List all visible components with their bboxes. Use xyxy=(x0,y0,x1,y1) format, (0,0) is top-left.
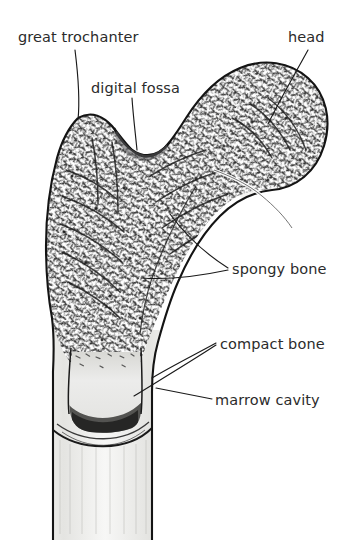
marrow-cavity-region xyxy=(68,352,142,436)
label-digital-fossa: digital fossa xyxy=(91,81,180,96)
figure-canvas: great trochanter head digital fossa spon… xyxy=(0,0,349,540)
leader-compact-bone-outer xyxy=(152,343,216,378)
label-great-trochanter: great trochanter xyxy=(18,30,139,45)
spongy-bone-texture xyxy=(20,50,349,380)
leader-marrow-cavity xyxy=(156,388,212,399)
label-spongy-bone: spongy bone xyxy=(232,262,327,277)
label-marrow-cavity: marrow cavity xyxy=(215,393,320,408)
leader-digital-fossa xyxy=(132,98,137,150)
leader-great-trochanter xyxy=(75,50,79,120)
label-head: head xyxy=(288,30,325,45)
label-compact-bone: compact bone xyxy=(220,337,325,352)
